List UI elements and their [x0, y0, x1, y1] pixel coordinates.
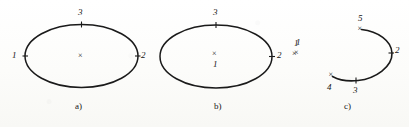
caption-a: a): [75, 102, 82, 111]
figure-container: 1 2 3 × a) 2 3 × 1 1 × b) × 5 2 3 × 4 1 …: [0, 0, 409, 127]
caption-b: b): [214, 102, 222, 111]
center-marker-b: ×: [212, 50, 217, 58]
label-b-3: 3: [213, 8, 218, 17]
arc-c-outline: [333, 30, 393, 81]
label-c-4: 4: [327, 83, 332, 92]
label-c-3: 3: [353, 86, 358, 95]
label-b-1-center: 1: [213, 60, 218, 69]
label-c-2: 2: [395, 46, 400, 55]
outside-marker-c: ×: [294, 49, 299, 57]
label-b-2: 2: [277, 51, 282, 60]
label-c-5: 5: [358, 14, 363, 23]
end-marker-c-5: ×: [358, 25, 363, 33]
label-a-3: 3: [78, 8, 83, 17]
panel-c-graphic: [333, 30, 395, 84]
panel-b-graphic: [160, 22, 275, 88]
label-a-2: 2: [141, 51, 146, 60]
label-c-1-outside: 1: [296, 38, 301, 47]
label-a-1: 1: [12, 51, 17, 60]
caption-c: c): [344, 102, 351, 111]
center-marker-a: ×: [78, 52, 83, 60]
end-marker-c-4: ×: [329, 71, 334, 79]
